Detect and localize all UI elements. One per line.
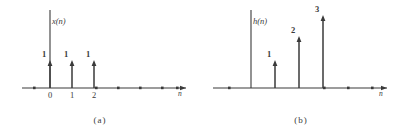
tick-label-a-1: 1 xyxy=(67,90,77,100)
signal-label-a: x(n) xyxy=(52,16,66,26)
stem-b-1 xyxy=(297,36,302,88)
caption-b: (b) xyxy=(201,115,401,125)
stem-a-2 xyxy=(92,60,97,88)
stem-a-0 xyxy=(48,60,53,88)
stem-plot-b-svg xyxy=(201,0,401,105)
stem-value-a-2: 1 xyxy=(86,49,90,59)
stem-plot-a: x(n) n 1 1 1 0 1 2 xyxy=(0,0,200,105)
stem-value-a-1: 1 xyxy=(64,49,68,59)
x-axis-label-a: n xyxy=(178,89,182,98)
tick-label-a-2: 2 xyxy=(89,90,99,100)
panel-b: h(n) n 1 2 3 (b) xyxy=(201,0,401,127)
stem-value-b-1: 2 xyxy=(291,25,295,35)
stem-value-a-0: 1 xyxy=(42,49,46,59)
caption-a: (a) xyxy=(0,115,200,125)
figure-stem-plots: x(n) n 1 1 1 0 1 2 (a) xyxy=(0,0,401,127)
stem-b-0 xyxy=(273,60,278,88)
stem-value-b-2: 3 xyxy=(315,4,319,14)
stem-plot-a-svg xyxy=(0,0,200,105)
tick-label-a-0: 0 xyxy=(45,90,55,100)
x-axis-label-b: n xyxy=(379,89,383,98)
stem-value-b-0: 1 xyxy=(267,49,271,59)
stem-plot-b: h(n) n 1 2 3 xyxy=(201,0,401,105)
stem-a-1 xyxy=(70,60,75,88)
panel-a: x(n) n 1 1 1 0 1 2 (a) xyxy=(0,0,200,127)
stem-b-2 xyxy=(321,15,326,88)
signal-label-b: h(n) xyxy=(253,16,267,26)
